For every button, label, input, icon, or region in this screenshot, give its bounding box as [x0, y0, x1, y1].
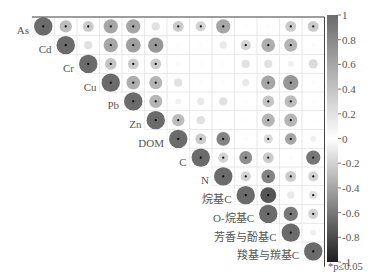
significance-dot: [267, 100, 269, 102]
significance-dot: [267, 138, 269, 140]
significance-dot: [65, 25, 67, 27]
correlation-cell: [244, 99, 248, 103]
colorbar-tick-label: 0.2: [342, 108, 356, 120]
significance-dot: [87, 25, 89, 27]
correlation-cell: [285, 133, 297, 145]
correlation-cell: [57, 36, 75, 54]
colorbar-tick-label: -0.6: [342, 207, 360, 219]
correlation-cell: [104, 38, 118, 52]
significance-dot: [290, 138, 292, 140]
correlation-cell: [221, 62, 225, 66]
significance-dot: [222, 157, 224, 159]
correlation-cells: [34, 17, 322, 260]
correlation-cell: [150, 58, 161, 69]
correlation-cell: [34, 17, 52, 35]
significance-dot: [267, 213, 269, 215]
correlation-cell: [241, 171, 251, 181]
colorbar-tick-label: 0.4: [342, 83, 356, 95]
significance-dot: [222, 175, 224, 177]
significance-dot: [312, 175, 314, 177]
colorbar-tick-label: 0.6: [342, 58, 356, 70]
colorbar-legend: 10.80.60.40.20-0.2-0.4-0.6-0.8-1: [327, 9, 360, 268]
significance-dot: [200, 157, 202, 159]
correlation-cell: [192, 148, 210, 166]
significance-dot: [312, 213, 314, 215]
colorbar-tick-label: -0.8: [342, 231, 360, 243]
significance-dot: [42, 25, 44, 27]
correlation-cell: [259, 205, 277, 223]
significance-dot: [267, 157, 269, 159]
significance-dot: [132, 100, 134, 102]
significance-dot: [267, 175, 269, 177]
colorbar-tick-label: -0.4: [342, 182, 360, 194]
correlation-cell: [176, 62, 180, 66]
significance-dot: [132, 25, 134, 27]
correlation-cell: [262, 96, 274, 108]
significance-dot: [312, 25, 314, 27]
correlation-cell: [216, 19, 230, 33]
significance-dot: [132, 63, 134, 65]
significance-dot: [312, 157, 314, 159]
correlation-cell: [195, 133, 206, 144]
correlation-cell: [60, 20, 72, 32]
correlation-cell: [199, 43, 203, 47]
correlation-cell: [266, 24, 270, 28]
variable-label: N: [201, 174, 209, 186]
correlation-cell: [261, 38, 275, 52]
significance-dot: [65, 44, 67, 46]
correlation-cell: [175, 98, 181, 104]
correlation-cell: [105, 58, 117, 70]
significance-dot: [177, 25, 179, 27]
correlation-cell: [284, 39, 297, 52]
correlation-cell: [214, 167, 232, 185]
colorbar-tick-label: 0: [342, 133, 348, 145]
significance-dot: [290, 100, 292, 102]
correlation-cell: [152, 22, 160, 30]
correlation-cell: [309, 59, 318, 68]
significance-dot: [155, 63, 157, 65]
correlation-cell: [148, 37, 163, 52]
significance-dot: [87, 63, 89, 65]
correlation-cell: [310, 136, 316, 142]
correlation-cell: [308, 21, 319, 32]
significance-note: *p≤0.05: [328, 261, 363, 272]
significance-dot: [245, 157, 247, 159]
correlation-cell: [173, 21, 184, 32]
correlation-cell: [174, 79, 182, 87]
correlation-cell: [289, 155, 293, 159]
correlation-cell: [241, 40, 251, 50]
significance-dot: [110, 25, 112, 27]
correlation-cell: [244, 24, 248, 28]
significance-dot: [155, 119, 157, 121]
correlation-cell: [242, 79, 249, 86]
correlation-cell: [310, 230, 316, 236]
correlation-cell: [288, 61, 294, 67]
correlation-cell: [147, 111, 165, 129]
significance-dot: [132, 44, 134, 46]
variable-label: 芳香与酚基C: [214, 230, 276, 243]
correlation-cell: [149, 76, 162, 89]
significance-dot: [267, 82, 269, 84]
variable-label: 烷基C: [202, 192, 231, 205]
colorbar-tick-label: -0.2: [342, 157, 359, 169]
correlation-cell: [221, 80, 225, 84]
correlation-cell: [260, 187, 276, 203]
correlation-cell: [284, 207, 298, 221]
correlation-cell: [104, 19, 118, 33]
significance-dot: [267, 44, 269, 46]
variable-label: DOM: [138, 137, 164, 149]
correlation-cell: [264, 60, 272, 68]
significance-dot: [222, 25, 224, 27]
correlation-cell: [311, 43, 315, 47]
variable-label: As: [17, 24, 29, 36]
correlation-cell: [287, 192, 294, 199]
correlation-cell: [196, 21, 206, 31]
correlation-cell: [311, 118, 315, 122]
correlation-cell: [311, 99, 315, 103]
correlation-cell: [197, 98, 204, 105]
correlation-cell: [124, 92, 142, 110]
correlation-cell: [284, 114, 297, 127]
correlation-cell: [126, 38, 141, 53]
significance-dot: [110, 63, 112, 65]
significance-dot: [312, 250, 314, 252]
